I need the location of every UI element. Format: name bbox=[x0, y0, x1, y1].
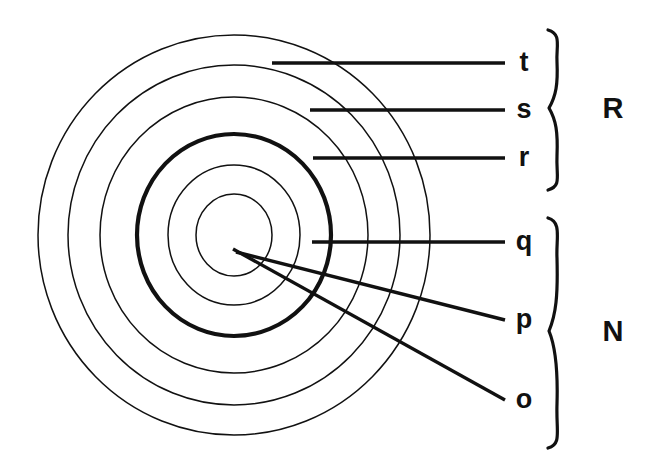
concentric-shells-figure: t s r q p o R N bbox=[0, 0, 656, 470]
ring-p-ellipse bbox=[168, 165, 300, 305]
shell-label-o: o bbox=[516, 384, 533, 414]
diagram-canvas: t s r q p o R N bbox=[0, 0, 656, 470]
group-brace-group bbox=[548, 30, 557, 448]
shell-label-t: t bbox=[520, 47, 529, 77]
brace-N bbox=[548, 218, 557, 448]
shell-label-group: t s r q p o bbox=[516, 47, 533, 414]
leader-line-group bbox=[233, 63, 505, 400]
ring-group bbox=[38, 35, 430, 435]
ring-r-ellipse bbox=[100, 97, 368, 373]
shell-label-p: p bbox=[516, 304, 533, 334]
leader-line-p bbox=[236, 252, 505, 320]
shell-label-s: s bbox=[516, 94, 531, 124]
shell-label-r: r bbox=[519, 142, 530, 172]
group-label-group: R N bbox=[603, 92, 624, 347]
shell-label-q: q bbox=[516, 226, 533, 256]
ring-t-ellipse bbox=[38, 35, 430, 435]
brace-R bbox=[548, 30, 557, 190]
group-label-R: R bbox=[603, 92, 624, 124]
leader-line-o bbox=[233, 249, 505, 400]
ring-s-ellipse bbox=[68, 65, 400, 405]
group-label-N: N bbox=[603, 315, 624, 347]
